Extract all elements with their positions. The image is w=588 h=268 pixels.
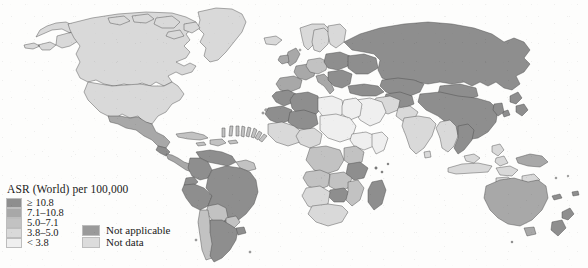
legend-swatch-not-data [82,237,100,248]
country-madagascar [368,180,386,210]
country-japan [502,92,528,117]
legend-title: ASR (World) per 100,000 [7,183,236,195]
country-new-caledonia [552,194,562,200]
country-poland-baltics [324,52,350,70]
legend-label-4: < 3.8 [27,238,49,248]
country-sri-lanka [424,151,431,158]
island-hispaniola [210,139,226,146]
country-philippines [492,144,508,166]
country-australia [484,178,548,226]
legend-label-not-data: Not data [106,236,144,248]
country-south-africa [308,204,348,226]
island-puerto-rico [228,140,238,144]
country-tasmania [524,227,536,236]
legend-body: ≥ 10.8 7.1–10.8 5.0–7.1 3.8–5.0 < 3.8 [6,198,236,248]
legend-item: ≥ 10.8 [6,198,126,208]
legend-swatch-not-applicable [82,225,100,236]
lesser-antilles-leaders [222,126,267,142]
legend-swatch-3 [6,228,22,238]
world-map-figure: ASR (World) per 100,000 ≥ 10.8 7.1–10.8 … [0,0,588,268]
country-iceland [264,36,282,45]
country-nigeria [296,128,322,148]
legend-item-not-applicable: Not applicable [82,224,170,236]
country-mozambique [346,180,364,206]
country-uruguay [236,227,246,235]
legend-swatch-4 [6,238,22,248]
legend-swatch-0 [6,198,22,208]
legend-swatch-2 [6,218,22,228]
legend-item: 7.1–10.8 [6,208,126,218]
country-new-zealand [551,208,574,236]
island-jamaica [196,142,206,146]
country-finland [328,24,346,48]
region-north-america [24,8,267,172]
legend-swatch-1 [6,208,22,218]
island-fiji [572,191,579,196]
country-india [402,116,436,154]
legend-item-not-data: Not data [82,236,170,248]
island-cuba [176,132,208,140]
country-papua-new-guinea [516,154,548,167]
country-spain-portugal [276,76,302,92]
country-greenland [198,8,246,62]
region-oceania [484,154,579,236]
country-sweden [312,28,330,52]
country-turkey [348,84,384,96]
country-dr-congo [306,146,344,174]
country-somalia [372,132,388,154]
country-ireland [278,55,289,64]
country-ukraine-belarus [348,54,378,74]
country-malaysia [464,154,480,163]
region-asia [344,22,540,185]
country-russia [344,22,530,90]
legend-label-not-applicable: Not applicable [106,224,170,236]
map-legend: ASR (World) per 100,000 ≥ 10.8 7.1–10.8 … [6,183,236,248]
country-mexico [108,116,170,148]
legend-extra-list: Not applicable Not data [82,224,170,248]
